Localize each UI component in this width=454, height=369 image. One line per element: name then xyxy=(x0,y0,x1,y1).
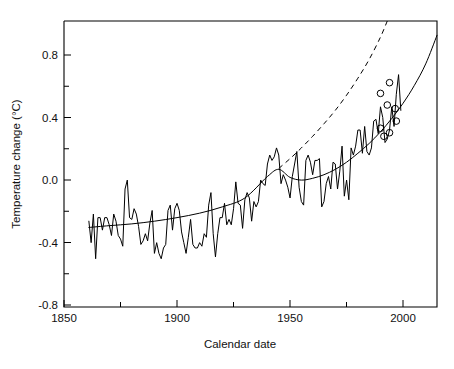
y-axis-title: Temperature change (°C) xyxy=(10,99,22,228)
x-axis-title: Calendar date xyxy=(204,338,276,350)
x-tick-label-1950: 1950 xyxy=(277,312,303,324)
y-tick-label-0.4: 0.4 xyxy=(42,112,59,124)
y-axis-ticks xyxy=(64,55,71,305)
chart-figure: 0.8 0.4 0.0 -0.4 -0.8 1850 1900 1950 200… xyxy=(0,0,454,369)
temperature-change-line-chart: 0.8 0.4 0.0 -0.4 -0.8 1850 1900 1950 200… xyxy=(0,0,454,369)
marker-point-5 xyxy=(377,125,384,132)
x-axis-ticks xyxy=(64,300,403,307)
series-observed-annual-temperature-anomaly xyxy=(89,75,401,259)
axis-frame-path xyxy=(64,21,437,307)
plot-frame xyxy=(64,21,437,307)
x-axis-tick-labels: 1850 1900 1950 2000 xyxy=(51,312,416,324)
y-axis-tick-labels: 0.8 0.4 0.0 -0.4 -0.8 xyxy=(38,49,58,311)
series-projected-model-dashed xyxy=(279,21,388,168)
marker-point-0 xyxy=(377,90,384,97)
y-tick-label-0.8: 0.8 xyxy=(42,49,58,61)
y-tick-label-0.0: 0.0 xyxy=(42,174,58,186)
x-tick-label-1900: 1900 xyxy=(164,312,190,324)
y-tick-label--0.4: -0.4 xyxy=(38,237,58,249)
series-fitted-model-historical xyxy=(89,35,437,227)
marker-point-2 xyxy=(384,102,391,109)
x-tick-label-1850: 1850 xyxy=(51,312,77,324)
y-tick-label--0.8: -0.8 xyxy=(38,299,58,311)
x-tick-label-2000: 2000 xyxy=(390,312,416,324)
marker-point-1 xyxy=(386,79,393,86)
